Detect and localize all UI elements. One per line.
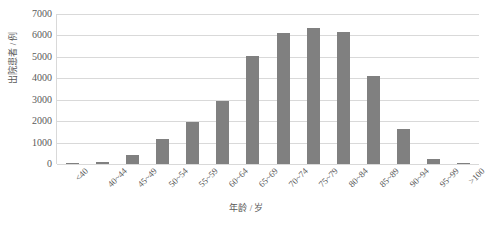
- y-tick-label: 6000: [18, 30, 52, 40]
- bar: [367, 76, 380, 164]
- x-tick-label: 85~89: [377, 166, 400, 189]
- x-tick-label: <40: [73, 166, 90, 183]
- bar-chart: 出院患者 / 例 01000200030004000500060007000 <…: [0, 0, 493, 227]
- y-tick-label: 7000: [18, 9, 52, 19]
- bar: [457, 163, 470, 164]
- axis-baseline: [57, 164, 479, 165]
- bar: [66, 163, 79, 164]
- y-tick-label: 0: [18, 159, 52, 169]
- x-tick-label: 65~69: [257, 166, 280, 189]
- x-axis-tick-labels: <4040~4445~4950~5455~5960~6465~6970~7475…: [56, 166, 478, 206]
- bar-series: [57, 14, 479, 164]
- bar: [397, 129, 410, 164]
- y-axis-tick-labels: 01000200030004000500060007000: [18, 9, 52, 165]
- y-tick-label: 5000: [18, 52, 52, 62]
- bar: [156, 139, 169, 164]
- x-tick-label: 70~74: [287, 166, 310, 189]
- x-tick-label: >100: [466, 166, 486, 186]
- y-tick-label: 4000: [18, 73, 52, 83]
- bar: [307, 28, 320, 164]
- x-tick-label: 45~49: [136, 166, 159, 189]
- bar: [126, 155, 139, 164]
- bar: [337, 32, 350, 164]
- x-tick-label: 80~84: [347, 166, 370, 189]
- x-tick-label: 40~44: [106, 166, 129, 189]
- x-tick-label: 75~79: [317, 166, 340, 189]
- plot-area: [56, 14, 479, 164]
- bar: [277, 33, 290, 164]
- x-tick-label: 50~54: [166, 166, 189, 189]
- bar: [246, 56, 259, 164]
- bar: [96, 162, 109, 164]
- y-tick-label: 1000: [18, 138, 52, 148]
- x-tick-label: 90~94: [407, 166, 430, 189]
- bar: [216, 101, 229, 164]
- y-tick-label: 2000: [18, 116, 52, 126]
- bar: [186, 122, 199, 164]
- x-axis-title: 年龄 / 岁: [0, 203, 493, 214]
- y-axis-title: 出院患者 / 例: [8, 13, 19, 103]
- x-tick-label: 60~64: [226, 166, 249, 189]
- x-tick-label: 55~59: [196, 166, 219, 189]
- bar: [427, 159, 440, 164]
- y-tick-label: 3000: [18, 95, 52, 105]
- x-tick-label: 95~99: [437, 166, 460, 189]
